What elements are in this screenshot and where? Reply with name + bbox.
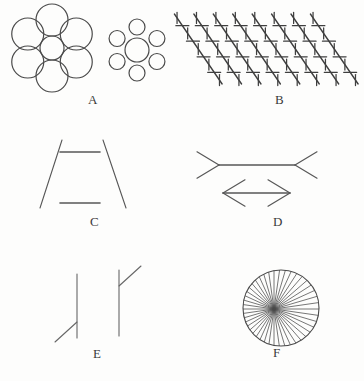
illusion-plate-canvas — [0, 0, 364, 381]
panel-label-e: E — [93, 346, 101, 362]
panel-label-a: A — [88, 92, 98, 108]
panel-label-b: B — [275, 92, 284, 108]
panel-f-radiating-lines — [243, 270, 319, 346]
panel-b-zollner — [174, 12, 358, 85]
panel-d-muller-lyer — [197, 152, 317, 206]
panel-a-ebbinghaus — [12, 4, 165, 92]
panel-label-d: D — [273, 214, 283, 230]
panel-c-ponzo — [40, 140, 126, 208]
panel-e-judd — [55, 266, 141, 342]
panel-label-c: C — [90, 214, 99, 230]
panel-label-f: F — [273, 345, 281, 361]
illusion-figure-plate: A B C D E F — [0, 0, 364, 381]
